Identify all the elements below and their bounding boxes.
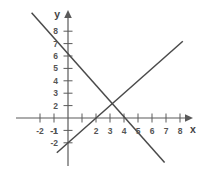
x-tick-label: -2	[36, 126, 44, 136]
y-tick-label: 7	[53, 39, 58, 49]
y-axis-label: y	[54, 8, 60, 20]
y-tick-label: 4	[53, 76, 58, 86]
x-tick-label: 3	[108, 126, 113, 136]
x-tick-label: 8	[178, 126, 183, 136]
x-tick-label: 2	[94, 126, 99, 136]
y-axis-arrow-icon	[64, 10, 72, 18]
y-tick-label: 6	[53, 51, 58, 61]
y-tick-label: 8	[53, 26, 58, 36]
x-axis-arrow-icon	[185, 114, 193, 122]
y-tick-label: 3	[53, 88, 58, 98]
y-tick-label: 5	[53, 63, 58, 73]
x-axis-label: x	[190, 123, 196, 135]
x-tick-label: 4	[122, 126, 127, 136]
chart-canvas: 8 7 6 5 4 3 2 -1 -2 -2 -1 2 3 4 5 6 7 8 …	[0, 0, 206, 175]
coordinate-plane-figure: 8 7 6 5 4 3 2 -1 -2 -2 -1 2 3 4 5 6 7 8 …	[0, 0, 206, 175]
y-tick-label: 2	[53, 101, 58, 111]
x-tick-label: 7	[164, 126, 169, 136]
x-tick-labels: -2 -1 2 3 4 5 6 7 8	[36, 126, 182, 136]
y-tick-label: -2	[50, 138, 58, 148]
x-tick-label: 6	[150, 126, 155, 136]
x-tick-label: -1	[50, 126, 58, 136]
x-tick-label: 5	[136, 126, 141, 136]
